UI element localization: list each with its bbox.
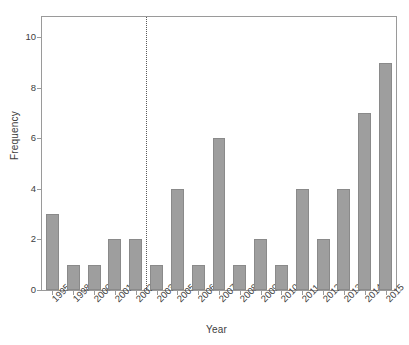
bar (171, 189, 184, 290)
bar (88, 265, 101, 290)
bar (275, 265, 288, 290)
x-axis-title: Year (0, 324, 409, 335)
bar (296, 189, 309, 290)
bar (192, 265, 205, 290)
plot-area: 0246810 19951998200020012002200320052006… (41, 16, 397, 291)
y-tick-mark (37, 189, 42, 190)
bar (129, 239, 142, 290)
bar (150, 265, 163, 290)
y-tick-mark (37, 290, 42, 291)
y-tick-label: 10 (16, 32, 36, 42)
bar (67, 265, 80, 290)
bar (254, 239, 267, 290)
vertical-dotted-divider (146, 17, 147, 290)
y-tick-mark (37, 138, 42, 139)
y-tick-label: 0 (16, 285, 36, 295)
y-tick-mark (37, 37, 42, 38)
x-axis-title-text: Year (206, 324, 227, 335)
bar (108, 239, 121, 290)
bar (213, 138, 226, 290)
y-tick-label: 6 (16, 133, 36, 143)
bar (358, 113, 371, 290)
bar (233, 265, 246, 290)
bar (337, 189, 350, 290)
y-tick-label: 4 (16, 184, 36, 194)
bar (317, 239, 330, 290)
bar (379, 63, 392, 291)
y-tick-label: 2 (16, 234, 36, 244)
y-tick-mark (37, 88, 42, 89)
bar (46, 214, 59, 290)
bar-chart: Frequency Year 0246810 19951998200020012… (0, 0, 409, 345)
y-tick-label: 8 (16, 83, 36, 93)
y-tick-mark (37, 239, 42, 240)
